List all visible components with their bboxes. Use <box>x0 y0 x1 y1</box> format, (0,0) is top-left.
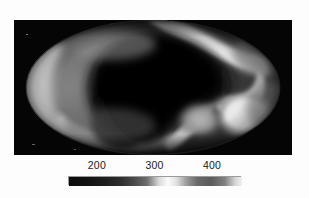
colorbar-tick-label-300: 300 <box>145 159 163 171</box>
colorbar <box>68 176 241 185</box>
colorbar-tick-labels: 200 300 400 <box>68 159 241 174</box>
colorbar-tick-label-400: 400 <box>203 159 221 171</box>
colorbar-block: 200 300 400 <box>68 159 241 189</box>
colorbar-tick-label-200: 200 <box>88 159 106 171</box>
mollweide-sky-map <box>14 20 292 155</box>
figure-root: 200 300 400 <box>0 0 309 198</box>
limb-vignette <box>26 21 280 155</box>
colorbar-gradient <box>69 177 242 186</box>
sky-map-panel <box>14 20 292 155</box>
